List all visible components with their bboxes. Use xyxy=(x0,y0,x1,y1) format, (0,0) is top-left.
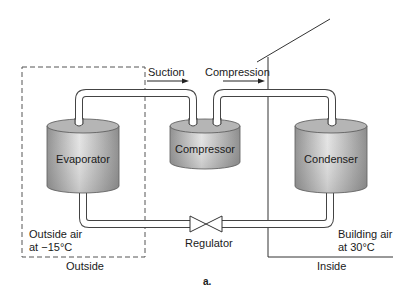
inside-zone-label: Inside xyxy=(317,260,346,273)
building-air-condition-line2: at 30°C xyxy=(338,241,375,254)
suction-arrow-icon xyxy=(147,79,189,84)
condenser-label: Condenser xyxy=(295,153,367,165)
compression-label: Compression xyxy=(205,66,270,79)
outside-air-condition-line1: Outside air xyxy=(29,228,82,241)
evaporator-label: Evaporator xyxy=(47,153,119,165)
liquid-line-pipe xyxy=(83,190,330,224)
regulator-valve-icon xyxy=(190,216,222,232)
outside-zone-label: Outside xyxy=(66,260,104,273)
building-air-condition-line1: Building air xyxy=(338,228,392,241)
figure-label: a. xyxy=(203,276,211,287)
regulator-label: Regulator xyxy=(185,237,233,250)
compressor-label: Compressor xyxy=(170,143,240,155)
outside-air-condition-line2: at −15°C xyxy=(29,241,72,254)
compression-arrow-icon xyxy=(223,79,265,84)
suction-label: Suction xyxy=(148,66,185,79)
